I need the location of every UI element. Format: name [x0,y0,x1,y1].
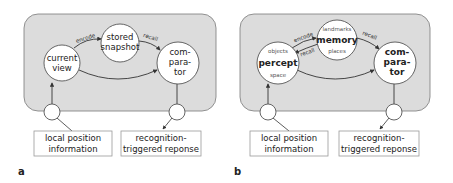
node-stored-snapshot: stored snapshot [101,24,140,62]
node-memory-top: landmarks [323,26,352,32]
node-memory-main: memory [316,35,357,45]
node-memory-bottom: places [328,48,346,55]
panel-a: encode recall current view stored snapsh… [18,14,216,177]
output-port-a [169,104,185,120]
diagram-canvas: encode recall current view stored snapsh… [0,0,453,183]
output-box-b-line1: recognition- [354,133,405,143]
node-current-view-line1: current [47,53,78,63]
input-port-b [260,104,276,120]
node-percept-main: percept [258,58,298,68]
node-comparator-b-line2: para- [384,57,411,67]
output-box-a-line2: triggered reponse [123,144,199,154]
output-box-a-line1: recognition- [136,133,187,143]
output-connector-a [163,118,172,129]
input-box-a: local position information [34,131,112,156]
node-comparator-b-line3: tor [390,67,405,77]
node-percept-bottom: space [270,72,287,79]
input-box-b: local position information [250,131,328,156]
panel-b-label: b [234,166,241,177]
panel-a-label: a [18,166,25,177]
output-box-b: recognition- triggered reponse [339,131,419,156]
input-connector-a [57,118,72,131]
node-comparator-b: com- para- tor [374,42,416,84]
node-memory: landmarks memory places [316,20,357,60]
node-percept-top: objects [268,48,288,55]
output-port-b [386,104,402,120]
node-current-view-line2: view [52,63,72,73]
node-comparator-a-line3: tor [174,67,187,77]
node-stored-snapshot-line2: snapshot [101,42,140,52]
node-comparator-a-line2: para- [169,57,191,67]
input-connector-b [273,118,289,131]
input-box-b-line2: information [264,144,313,154]
input-box-b-line1: local position [261,133,317,143]
node-percept: objects percept space [257,42,299,84]
output-box-a: recognition- triggered reponse [121,131,201,156]
input-box-a-line2: information [48,144,97,154]
panel-b: encode recall recall objects percept spa… [234,14,430,177]
node-comparator-a: com- para- tor [157,42,199,84]
node-current-view: current view [44,45,80,81]
input-port-a [44,104,60,120]
node-stored-snapshot-line1: stored [107,32,134,42]
output-box-b-line2: triggered reponse [341,144,417,154]
node-comparator-a-line1: com- [169,47,190,57]
input-box-a-line1: local position [45,133,101,143]
output-connector-b [380,118,389,129]
node-comparator-b-line1: com- [385,47,410,57]
